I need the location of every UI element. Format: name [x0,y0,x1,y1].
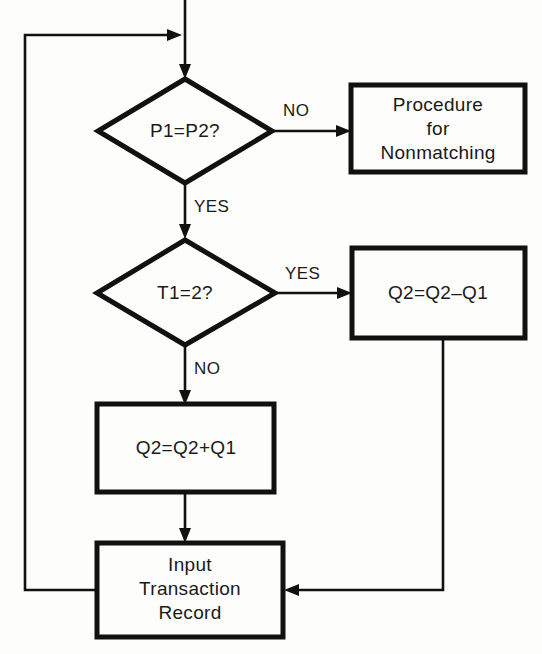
process-procedure-for-nonmatching[interactable]: Procedure for Nonmatching [351,85,525,172]
process-procedure-line-2: for [426,118,449,139]
process-input-line-2: Transaction [139,578,241,599]
process-q2-minus-q1[interactable]: Q2=Q2–Q1 [352,248,525,338]
decision-t1-equals-2-label: T1=2? [157,282,213,303]
edge-label-p1p2-yes: YES [194,197,229,216]
connector-entry-to-p1p2 [179,0,191,79]
decision-p1-equals-p2[interactable]: P1=P2? [98,79,272,183]
connector-t1-no [179,345,191,405]
flowchart-canvas: P1=P2? Procedure for Nonmatching T1=2? Q… [0,0,542,654]
edge-label-p1p2-no: NO [283,101,309,120]
connector-q2minus-to-input [284,338,443,596]
connector-p1p2-no [272,125,351,137]
edge-label-t1-yes: YES [285,264,320,283]
connector-q2plus-to-input [179,492,191,543]
process-input-line-1: Input [168,554,212,575]
process-q2-minus-q1-label: Q2=Q2–Q1 [388,282,488,303]
connector-p1p2-yes [179,185,191,239]
flowchart-diagram: P1=P2? Procedure for Nonmatching T1=2? Q… [0,0,542,654]
process-q2-plus-q1[interactable]: Q2=Q2+Q1 [97,404,274,492]
process-procedure-line-1: Procedure [393,94,483,115]
connector-t1-yes [275,287,352,299]
edge-label-t1-no: NO [194,359,220,378]
process-input-transaction-record[interactable]: Input Transaction Record [97,543,283,637]
decision-p1-equals-p2-label: P1=P2? [150,120,220,141]
process-q2-plus-q1-label: Q2=Q2+Q1 [136,437,237,458]
decision-t1-equals-2[interactable]: T1=2? [97,240,275,345]
process-procedure-line-3: Nonmatching [380,142,495,163]
process-input-line-3: Record [158,602,221,623]
